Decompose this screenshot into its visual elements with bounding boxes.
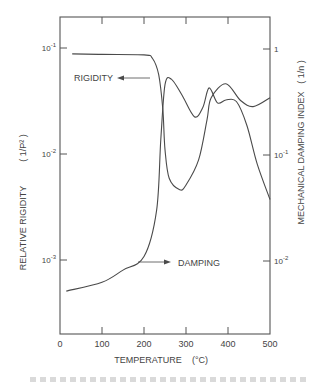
damping-label: DAMPING bbox=[178, 258, 220, 268]
y2-tick-label: 1 bbox=[274, 45, 279, 54]
axis-ticks: 010020030040050010-110-210-3110-110-2 bbox=[42, 17, 289, 349]
x-tick-label: 200 bbox=[136, 339, 151, 349]
damping-curve bbox=[66, 77, 270, 291]
y2-axis-unit: ( 1/n ) bbox=[296, 60, 306, 84]
figure-caption-cropped bbox=[30, 377, 310, 382]
y2-axis-title: MECHANICAL DAMPING INDEX bbox=[296, 91, 306, 224]
y2-tick-label: 10-2 bbox=[274, 255, 289, 266]
x-axis-unit: (°C) bbox=[192, 355, 208, 365]
y-axis-unit: ( 1/P² ) bbox=[18, 134, 28, 162]
y-tick-label: 10-3 bbox=[42, 254, 57, 265]
x-tick-label: 400 bbox=[220, 339, 235, 349]
axes-box bbox=[60, 17, 270, 334]
x-tick-label: 300 bbox=[178, 339, 193, 349]
y-tick-label: 10-2 bbox=[42, 148, 57, 159]
damping-arrowhead bbox=[164, 260, 171, 265]
data-curves bbox=[66, 54, 270, 291]
rigidity-arrowhead bbox=[117, 76, 124, 81]
x-tick-label: 500 bbox=[262, 339, 277, 349]
y-axis-title: RELATIVE RIGIDITY bbox=[18, 186, 28, 270]
x-axis-title: TEMPERATURE bbox=[114, 355, 181, 365]
y-tick-label: 10-1 bbox=[42, 42, 57, 53]
chart: 010020030040050010-110-210-3110-110-2 TE… bbox=[0, 0, 333, 382]
x-tick-label: 0 bbox=[57, 339, 62, 349]
y2-tick-label: 10-1 bbox=[274, 149, 289, 160]
rigidity-label: RIGIDITY bbox=[74, 73, 113, 83]
plot-frame bbox=[60, 17, 270, 334]
x-tick-label: 100 bbox=[94, 339, 109, 349]
